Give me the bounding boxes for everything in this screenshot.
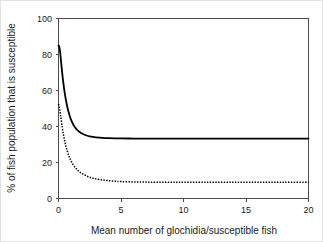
x-tick-label-20: 20: [303, 205, 313, 215]
line-chart: 100 80 60 40 20 0 0 5 10 15 20 Mean numb…: [1, 1, 323, 242]
x-axis-title: Mean number of glochidia/susceptible fis…: [91, 225, 277, 236]
series-dotted-line: [59, 104, 309, 182]
y-tick-label-40: 40: [42, 122, 52, 132]
x-tick-label-10: 10: [178, 205, 188, 215]
y-tick-label-20: 20: [42, 158, 52, 168]
y-tick-label-100: 100: [37, 14, 52, 24]
y-tick-label-80: 80: [42, 50, 52, 60]
y-axis-title: % of fish population that is susceptible: [6, 23, 17, 193]
y-tick-label-60: 60: [42, 86, 52, 96]
x-tick-label-5: 5: [118, 205, 123, 215]
y-axis-tick-labels: 100 80 60 40 20 0: [37, 14, 52, 204]
x-tick-label-15: 15: [241, 205, 251, 215]
x-axis-tick-labels: 0 5 10 15 20: [56, 205, 314, 215]
series-solid-line: [59, 46, 309, 139]
y-tick-label-0: 0: [47, 194, 52, 204]
x-tick-label-0: 0: [56, 205, 61, 215]
figure-container: 100 80 60 40 20 0 0 5 10 15 20 Mean numb…: [0, 0, 323, 242]
plot-frame: [59, 19, 309, 199]
